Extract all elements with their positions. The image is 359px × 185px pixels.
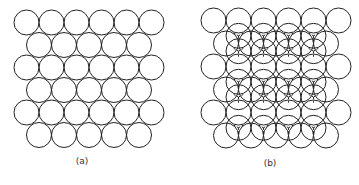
sphere-circle	[64, 10, 89, 35]
sphere-circle	[326, 54, 351, 79]
panel-b-label: (b)	[264, 158, 277, 168]
sphere-circle	[64, 100, 89, 125]
sphere-circle	[251, 54, 276, 79]
sphere-circle	[226, 8, 251, 33]
sphere-circle	[276, 54, 301, 79]
sphere-circle	[114, 100, 139, 125]
sphere-circle	[89, 55, 114, 80]
sphere-circle	[114, 55, 139, 80]
sphere-circle	[326, 8, 351, 33]
sphere-circle	[127, 123, 152, 148]
sphere-circle	[27, 33, 52, 58]
panel-a-single-layer	[14, 10, 164, 148]
sphere-packing-diagram	[0, 0, 359, 185]
sphere-circle	[201, 100, 226, 125]
sphere-circle	[127, 78, 152, 103]
panel-b-two-layers	[201, 8, 351, 148]
sphere-circle	[102, 123, 127, 148]
sphere-circle	[201, 8, 226, 33]
sphere-circle	[276, 8, 301, 33]
sphere-circle	[14, 10, 39, 35]
sphere-circle	[139, 100, 164, 125]
sphere-circle	[27, 78, 52, 103]
sphere-circle	[226, 100, 251, 125]
sphere-circle	[52, 123, 77, 148]
sphere-circle	[326, 100, 351, 125]
sphere-circle	[52, 33, 77, 58]
sphere-circle	[139, 10, 164, 35]
sphere-circle	[102, 78, 127, 103]
sphere-circle	[251, 8, 276, 33]
sphere-circle	[39, 55, 64, 80]
sphere-circle	[89, 100, 114, 125]
sphere-circle	[301, 100, 326, 125]
sphere-circle	[226, 54, 251, 79]
sphere-circle	[127, 33, 152, 58]
figure: (a) (b)	[0, 0, 359, 185]
sphere-circle	[139, 55, 164, 80]
sphere-circle	[77, 33, 102, 58]
sphere-circle	[52, 78, 77, 103]
sphere-circle	[89, 10, 114, 35]
sphere-circle	[201, 54, 226, 79]
sphere-circle	[77, 123, 102, 148]
sphere-circle	[114, 10, 139, 35]
sphere-circle	[251, 100, 276, 125]
sphere-circle	[77, 78, 102, 103]
sphere-circle	[27, 123, 52, 148]
panel-a-label: (a)	[76, 156, 89, 166]
sphere-circle	[14, 100, 39, 125]
sphere-circle	[301, 54, 326, 79]
sphere-circle	[276, 100, 301, 125]
sphere-circle	[64, 55, 89, 80]
sphere-circle	[39, 10, 64, 35]
sphere-circle	[102, 33, 127, 58]
sphere-circle	[39, 100, 64, 125]
sphere-circle	[301, 8, 326, 33]
sphere-circle	[14, 55, 39, 80]
